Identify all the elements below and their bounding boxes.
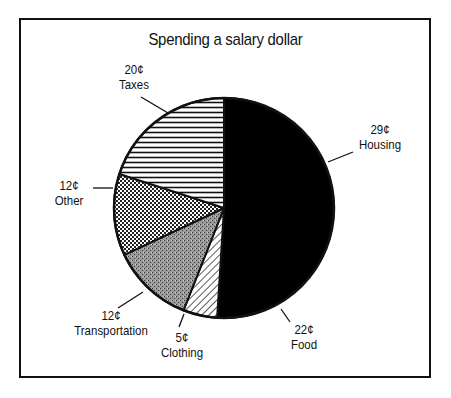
label-transportation-value: 12¢: [64, 308, 158, 323]
label-taxes-value: 20¢: [109, 62, 160, 77]
label-housing-value: 29¢: [350, 122, 410, 137]
leader-taxes: [141, 97, 168, 113]
slice-housing-food: [217, 98, 334, 318]
label-housing: 29¢ Housing: [350, 122, 410, 152]
label-other: 12¢ Other: [48, 178, 91, 208]
label-other-name: Other: [48, 193, 91, 208]
leader-transportation: [118, 292, 143, 308]
label-transportation-name: Transportation: [64, 323, 158, 338]
leader-food: [281, 309, 290, 322]
label-other-value: 12¢: [48, 178, 91, 193]
leader-clothing: [179, 314, 184, 327]
label-taxes: 20¢ Taxes: [109, 62, 160, 92]
label-clothing: 5¢ Clothing: [155, 330, 209, 360]
label-taxes-name: Taxes: [109, 77, 160, 92]
label-food-name: Food: [284, 337, 325, 352]
label-clothing-value: 5¢: [155, 330, 209, 345]
label-housing-name: Housing: [350, 137, 410, 152]
label-food-value: 22¢: [284, 322, 325, 337]
label-food: 22¢ Food: [284, 322, 325, 352]
label-transportation: 12¢ Transportation: [64, 308, 158, 338]
leader-housing: [328, 152, 353, 162]
label-clothing-name: Clothing: [155, 345, 209, 360]
